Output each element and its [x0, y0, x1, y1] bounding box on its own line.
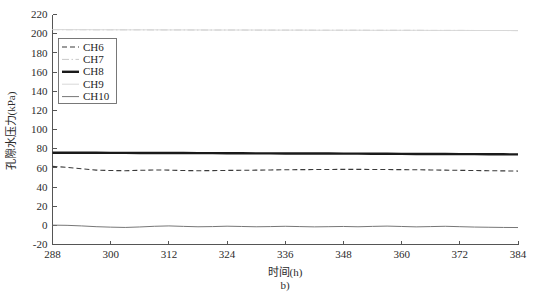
x-axis-tick-labels: 288300312324336348360372384 [44, 248, 527, 260]
y-tick-label: 60 [37, 162, 49, 174]
y-axis-title: 孔隙水压力(kPa) [4, 91, 18, 170]
y-tick-label: 160 [31, 66, 48, 78]
x-tick-label: 348 [335, 248, 352, 260]
x-tick-label: 360 [393, 248, 410, 260]
y-tick-label: 180 [31, 47, 48, 59]
y-tick-label: 80 [37, 142, 49, 154]
x-tick-label: 384 [510, 248, 527, 260]
x-tick-label: 336 [277, 248, 294, 260]
chart-legend: CH6CH7CH8CH9CH10 [59, 39, 117, 104]
legend-label-ch7: CH7 [83, 53, 104, 65]
legend-label-ch6: CH6 [83, 41, 104, 53]
pore-water-pressure-line-chart: -20020406080100120140160180200220 288300… [0, 0, 538, 292]
legend-label-ch9: CH9 [83, 78, 104, 90]
x-tick-label: 324 [219, 248, 236, 260]
y-tick-label: 140 [31, 85, 48, 97]
x-axis-title: 时间(h) [268, 266, 303, 279]
y-tick-label: 100 [31, 123, 48, 135]
y-tick-label: 20 [37, 200, 49, 212]
legend-label-ch10: CH10 [83, 90, 110, 102]
x-tick-label: 300 [102, 248, 119, 260]
y-tick-label: 220 [31, 8, 48, 20]
y-tick-label: 0 [42, 219, 48, 231]
x-tick-label: 312 [161, 248, 178, 260]
x-tick-label: 288 [44, 248, 61, 260]
legend-label-ch8: CH8 [83, 65, 104, 77]
y-tick-label: 120 [31, 104, 48, 116]
figure-panel: -20020406080100120140160180200220 288300… [0, 0, 538, 292]
y-tick-label: 40 [37, 181, 49, 193]
figure-caption: b) [280, 279, 290, 292]
x-tick-label: 372 [452, 248, 469, 260]
y-tick-label: 200 [31, 27, 48, 39]
